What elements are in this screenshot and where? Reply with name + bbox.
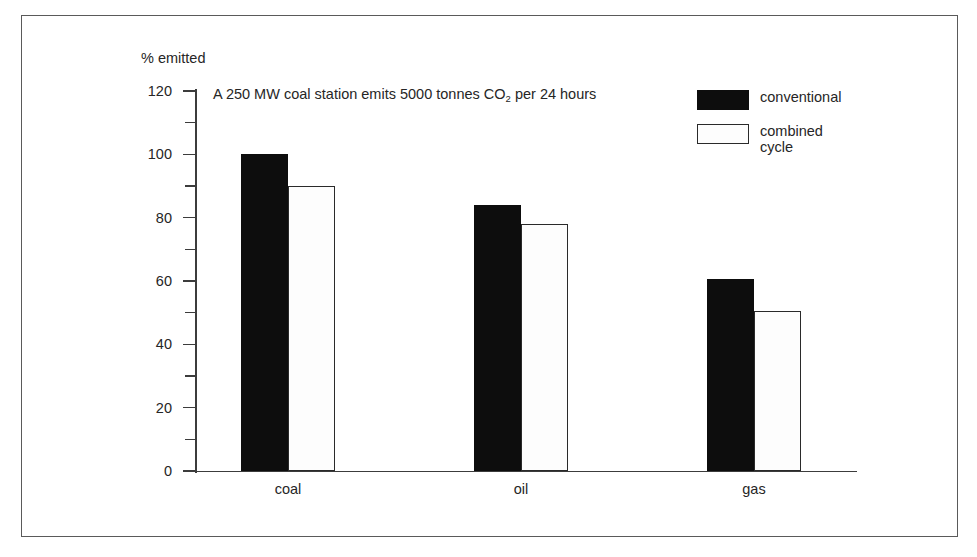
y-tick-minor — [185, 439, 196, 440]
chart-figure: % emitted A 250 MW coal station emits 50… — [0, 0, 977, 557]
y-tick-label: 40 — [128, 336, 172, 352]
annotation-text-tail: per 24 hours — [511, 86, 596, 102]
y-tick-minor — [185, 249, 196, 250]
y-tick-minor — [185, 122, 196, 123]
y-tick-major — [183, 470, 196, 471]
y-tick-label: 0 — [128, 463, 172, 479]
y-tick-label: 120 — [128, 83, 172, 99]
y-tick-label: 60 — [128, 273, 172, 289]
y-tick-major — [183, 90, 196, 91]
legend-swatch-combined-cycle — [697, 124, 749, 144]
y-tick-minor — [185, 312, 196, 313]
y-axis-title: % emitted — [141, 50, 205, 66]
x-category-label-gas: gas — [742, 481, 765, 497]
y-tick-minor — [185, 185, 196, 186]
x-category-label-coal: coal — [275, 481, 302, 497]
y-tick-major — [183, 407, 196, 408]
legend-swatch-conventional — [697, 90, 749, 110]
y-tick-major — [183, 280, 196, 281]
legend-item-combined-cycle: combined cycle — [697, 123, 912, 155]
legend-label-combined-cycle: combined cycle — [760, 123, 823, 155]
x-category-label-oil: oil — [514, 481, 529, 497]
chart-legend: conventional combined cycle — [697, 89, 912, 168]
y-tick-minor — [185, 375, 196, 376]
annotation-text-main: A 250 MW coal station emits 5000 tonnes … — [213, 86, 506, 102]
y-tick-label: 20 — [128, 400, 172, 416]
y-tick-major — [183, 344, 196, 345]
y-tick-label: 100 — [128, 146, 172, 162]
bar-coal-combined-cycle — [288, 186, 335, 471]
legend-item-conventional: conventional — [697, 89, 912, 110]
bar-oil-conventional — [474, 205, 521, 471]
y-tick-label: 80 — [128, 210, 172, 226]
annotation-subscript: 2 — [506, 93, 511, 104]
bar-gas-conventional — [707, 279, 754, 471]
bar-gas-combined-cycle — [754, 311, 801, 471]
bar-coal-conventional — [241, 154, 288, 471]
y-tick-major — [183, 154, 196, 155]
bar-oil-combined-cycle — [521, 224, 568, 471]
y-tick-major — [183, 217, 196, 218]
legend-label-conventional: conventional — [760, 89, 841, 105]
chart-annotation: A 250 MW coal station emits 5000 tonnes … — [213, 86, 596, 102]
